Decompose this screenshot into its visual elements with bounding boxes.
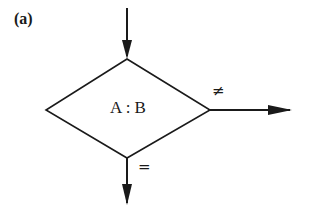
decision-condition: A : B [98, 98, 158, 118]
not-equal-label: ≠ [212, 82, 225, 100]
equal-arrow [122, 158, 132, 205]
flowchart-diagram: (a) A : B ≠ = [0, 0, 318, 213]
equal-label: = [138, 158, 151, 176]
flowchart-svg [0, 0, 318, 213]
incoming-arrow [122, 8, 132, 59]
panel-label: (a) [14, 10, 33, 28]
not-equal-arrow [210, 105, 292, 115]
